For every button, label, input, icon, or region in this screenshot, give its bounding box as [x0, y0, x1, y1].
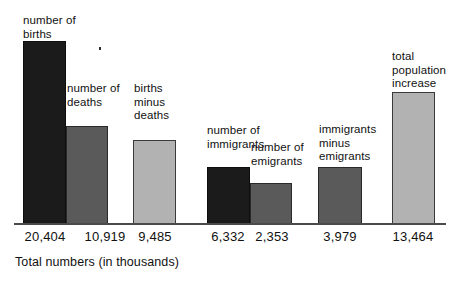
bar-number-of-births: [23, 41, 66, 224]
bar-total-population-increase: [392, 92, 435, 224]
caption-immigrants-minus-emigrants: immigrants minus emigrants: [319, 123, 391, 164]
caption-number-of-births: number of births: [23, 14, 108, 41]
value-label-number-of-emigrants: 2,353: [244, 229, 300, 245]
bar-chart-figure: number of births number of deaths births…: [0, 0, 461, 285]
value-label-total-population-increase: 13,464: [382, 229, 444, 245]
axis-baseline: [14, 223, 446, 225]
value-label-immigrants-minus-emigrants: 3,979: [312, 229, 368, 245]
bar-number-of-immigrants: [207, 167, 250, 224]
caption-number-of-deaths: number of deaths: [67, 82, 137, 109]
value-label-births-minus-deaths: 9,485: [127, 229, 183, 245]
value-label-number-of-births: 20,404: [14, 229, 76, 245]
caption-births-minus-deaths: births minus deaths: [134, 82, 194, 123]
bar-immigrants-minus-emigrants: [318, 167, 362, 224]
caption-total-population-increase: total population increase: [392, 50, 458, 91]
axis-footnote: Total numbers (in thousands): [15, 254, 179, 270]
caption-number-of-emigrants: number of emigrants: [251, 141, 323, 168]
bar-number-of-deaths: [66, 126, 108, 224]
bar-number-of-emigrants: [250, 183, 292, 224]
scan-speck: [99, 47, 101, 50]
plot-area: number of births number of deaths births…: [0, 0, 461, 285]
value-label-number-of-deaths: 10,919: [76, 229, 134, 245]
bar-births-minus-deaths: [133, 140, 176, 224]
